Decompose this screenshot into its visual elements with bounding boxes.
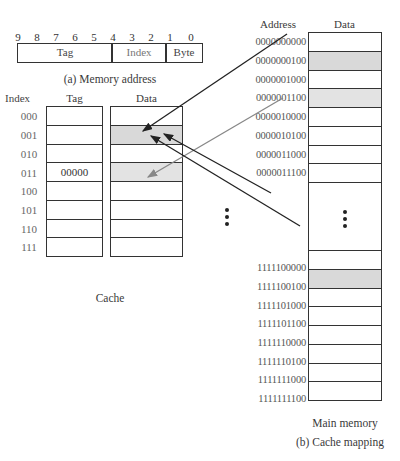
arrow-1111100100-to-001 (151, 136, 300, 226)
arrow-0000011100-to-001 (164, 134, 271, 193)
arrow-0000000100-to-001 (143, 34, 287, 131)
mapping-arrows (0, 0, 400, 461)
arrow-0000001100-to-011 (148, 98, 283, 177)
